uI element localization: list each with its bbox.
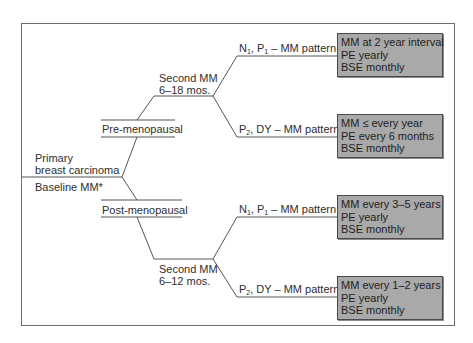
pattern-post-n1p1: N1, P1 – MM pattern [239, 203, 336, 215]
rec-line: PE every 6 months [341, 130, 439, 143]
second-mm-post-line1: Second MM [159, 263, 218, 275]
second-mm-post-line2: 6–12 mos. [159, 275, 210, 287]
rec-line: MM ≤ every year [341, 117, 439, 130]
rec-line: PE yearly [341, 292, 439, 305]
pattern-pre-n1p1: N1, P1 – MM pattern [239, 42, 336, 54]
recommendation-box-post-p2dy: MM every 1–2 years PE yearly BSE monthly [337, 276, 443, 320]
second-mm-pre-line2: 6–18 mos. [159, 84, 210, 96]
rec-line: MM every 3–5 years [341, 198, 439, 211]
rec-line: BSE monthly [341, 61, 439, 74]
root-label-breast-carcinoma: breast carcinoma [35, 164, 119, 176]
rec-line: BSE monthly [341, 304, 439, 317]
branch-label-post-menopausal: Post-menopausal [102, 204, 188, 216]
pattern-pre-p2dy: P2, DY – MM pattern [239, 123, 339, 135]
recommendation-box-pre-p2dy: MM ≤ every year PE every 6 months BSE mo… [337, 114, 443, 158]
rec-line: MM every 1–2 years [341, 279, 439, 292]
branch-label-pre-menopausal: Pre-menopausal [102, 123, 183, 135]
pattern-post-p2dy: P2, DY – MM pattern [239, 283, 339, 295]
rec-line: BSE monthly [341, 142, 439, 155]
rec-line: MM at 2 year interval [341, 36, 439, 49]
recommendation-box-post-n1p1: MM every 3–5 years PE yearly BSE monthly [337, 195, 443, 239]
recommendation-box-pre-n1p1: MM at 2 year interval PE yearly BSE mont… [337, 33, 443, 77]
rec-line: BSE monthly [341, 223, 439, 236]
rec-line: PE yearly [341, 211, 439, 224]
rec-line: PE yearly [341, 49, 439, 62]
root-label-baseline-mm: Baseline MM* [35, 181, 103, 193]
second-mm-pre-line1: Second MM [159, 72, 218, 84]
root-label-primary: Primary [35, 152, 73, 164]
